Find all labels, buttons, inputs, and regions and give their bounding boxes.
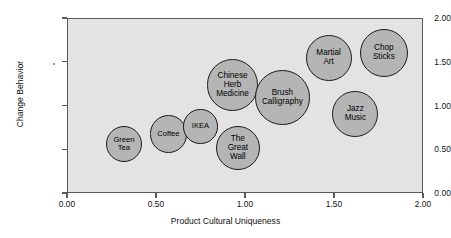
bubble-label: MartialArt xyxy=(315,49,342,67)
x-tick-mark xyxy=(155,193,156,198)
y-tick-mark xyxy=(62,149,67,150)
bubble-label: JazzMusic xyxy=(344,105,367,123)
stray-mark xyxy=(53,63,55,65)
y-tick-label: 0.50 xyxy=(393,144,451,154)
bubble-label: GreenTea xyxy=(112,136,135,152)
bubble-label: IKEA xyxy=(191,122,210,130)
bubble-label: Coffee xyxy=(156,130,180,138)
x-tick-mark xyxy=(333,193,334,198)
bubble-brush-calligraphy[interactable]: BrushCalligraphy xyxy=(255,70,310,125)
y-tick-label: 1.00 xyxy=(393,101,451,111)
bubble-label: ChineseHerbMedicine xyxy=(215,72,250,99)
y-tick-mark xyxy=(62,61,67,62)
bubble-chart: 0.000.501.001.502.000.000.501.001.502.00… xyxy=(0,0,451,238)
bubble-chop-sticks[interactable]: ChopSticks xyxy=(360,29,408,77)
bubble-label: BrushCalligraphy xyxy=(261,89,304,107)
x-tick-label: 1.00 xyxy=(225,199,265,209)
y-tick-mark xyxy=(62,105,67,106)
x-tick-mark xyxy=(66,193,67,198)
bubble-ikea[interactable]: IKEA xyxy=(183,109,217,143)
x-tick-mark xyxy=(244,193,245,198)
bubble-green-tea[interactable]: GreenTea xyxy=(106,126,142,162)
bubble-label: TheGreatWall xyxy=(227,135,249,162)
x-tick-label: 2.00 xyxy=(403,199,443,209)
bubble-the-great-wall[interactable]: TheGreatWall xyxy=(216,126,260,170)
x-tick-label: 0.00 xyxy=(47,199,87,209)
y-tick-label: 2.00 xyxy=(393,13,451,23)
y-axis-title: Change Behavior xyxy=(15,24,25,164)
bubble-martial-art[interactable]: MartialArt xyxy=(306,35,352,81)
x-tick-label: 1.50 xyxy=(314,199,354,209)
x-axis-title: Product Cultural Uniqueness xyxy=(0,216,451,226)
bubble-label: ChopSticks xyxy=(372,44,396,62)
bubble-jazz-music[interactable]: JazzMusic xyxy=(332,91,378,137)
y-tick-mark xyxy=(62,17,67,18)
x-tick-mark xyxy=(422,193,423,198)
x-tick-label: 0.50 xyxy=(136,199,176,209)
